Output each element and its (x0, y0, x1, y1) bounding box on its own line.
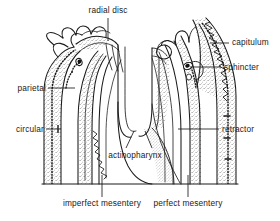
label-capitulum: capitulum (232, 37, 269, 47)
label-retractor: retractor (222, 124, 254, 134)
label-perfect-mesentery: perfect mesentery (126, 198, 250, 208)
label-actinopharynx: actinopharynx (95, 150, 175, 160)
label-radial-disc: radial disc (78, 5, 138, 15)
diagram-background (0, 0, 280, 221)
label-parietal: parietal (0, 83, 46, 93)
label-sphincter: sphincter (224, 62, 259, 72)
sea-anemone-diagram (0, 0, 280, 221)
label-circular: circular (0, 124, 44, 134)
sphincter-lower-lobe (186, 74, 191, 80)
